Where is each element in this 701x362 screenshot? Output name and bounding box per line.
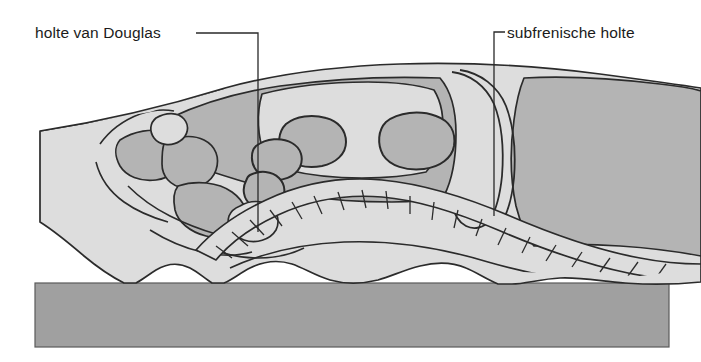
- label-subfrenische-holte: subfrenische holte: [507, 25, 635, 41]
- examination-table: [35, 283, 669, 347]
- label-holte-van-douglas: holte van Douglas: [35, 25, 161, 41]
- anatomical-diagram: [0, 0, 701, 362]
- illustration-canvas: holte van Douglas subfrenische holte: [0, 0, 701, 362]
